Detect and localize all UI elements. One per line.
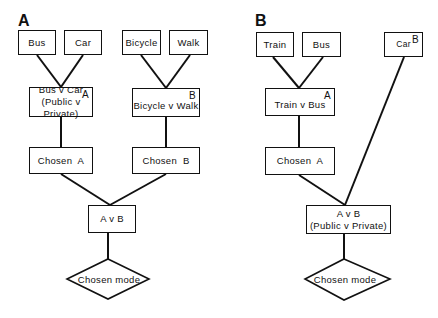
top-choice-a-v-b: A v B — [88, 205, 136, 233]
nest-b-bicycle-v-walk: B Bicycle v Walk — [132, 88, 200, 117]
option-label: Car — [396, 39, 411, 50]
chosen-b: Chosen B — [132, 147, 200, 174]
chosen-label: Chosen A — [277, 155, 324, 167]
chosen-mode-label: Chosen mode — [78, 274, 140, 285]
chosen-label: Chosen A — [38, 155, 85, 167]
nest-a-bus-v-car: A Bus v Car (Public v Private) — [29, 87, 93, 117]
top-choice-label: A v B — [100, 213, 124, 225]
option-car: Car — [64, 30, 102, 55]
chosen-a: Chosen A — [29, 147, 93, 174]
nest-label: Bus v Car — [39, 84, 83, 96]
panel-label-a: A — [18, 12, 30, 30]
nest-tag: A — [324, 90, 331, 103]
nest-tag: A — [82, 89, 89, 102]
option-train: Train — [256, 32, 294, 57]
option-label: Train — [264, 39, 287, 51]
option-bus: Bus — [302, 32, 341, 57]
chosen-a: Chosen A — [265, 147, 335, 175]
option-label: Walk — [178, 37, 200, 49]
option-bicycle: Bicycle — [122, 30, 161, 55]
option-walk: Walk — [169, 30, 208, 55]
option-label: Bus — [28, 37, 45, 49]
top-choice-sublabel: (Public v Private) — [310, 220, 387, 232]
panel-label-b: B — [255, 12, 267, 30]
option-car: B Car — [384, 32, 423, 57]
option-label: Car — [75, 37, 91, 49]
nest-tag: B — [412, 34, 419, 47]
nest-label: Train v Bus — [275, 99, 326, 111]
top-choice-label: A v B — [337, 208, 361, 220]
option-label: Bicycle — [125, 37, 157, 49]
top-choice-a-v-b: A v B (Public v Private) — [306, 205, 391, 234]
nest-a-train-v-bus: A Train v Bus — [265, 88, 335, 116]
option-label: Bus — [313, 39, 330, 51]
chosen-mode-label: Chosen mode — [314, 274, 376, 285]
option-bus: Bus — [18, 30, 56, 55]
nest-tag: B — [189, 90, 196, 103]
chosen-label: Chosen B — [142, 155, 189, 167]
